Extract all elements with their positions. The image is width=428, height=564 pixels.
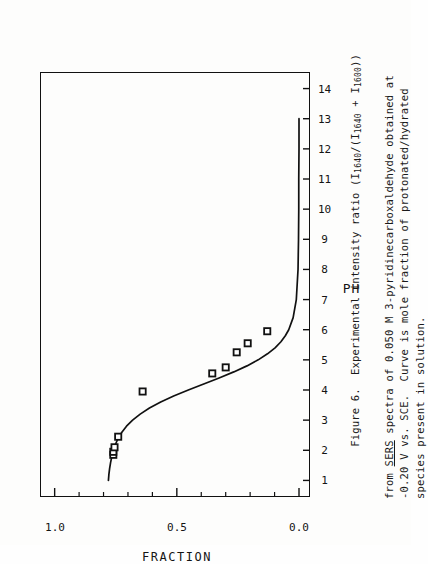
x-tick-label-2: 2: [321, 444, 328, 457]
figure-caption: Figure 6. Experimental intensity ratio (…: [332, 69, 428, 499]
y-axis-title: FRACTION: [142, 550, 212, 564]
x-tick-label-8: 8: [321, 263, 328, 276]
y-tick-label-0.5: 0.5: [167, 521, 187, 534]
x-tick-label-1: 1: [321, 474, 328, 487]
x-tick-label-12: 12: [318, 142, 331, 155]
plot-area: [40, 72, 310, 497]
x-tick-label-13: 13: [318, 112, 331, 125]
x-tick-label-9: 9: [321, 233, 328, 246]
y-tick-label-0.0: 0.0: [289, 521, 309, 534]
plot-canvas: [40, 72, 310, 497]
x-tick-label-6: 6: [321, 323, 328, 336]
x-tick-label-5: 5: [321, 353, 328, 366]
caption-line-2: from SERS spectra of 0.050 M 3-pyridinec…: [382, 69, 398, 499]
x-tick-label-7: 7: [321, 293, 328, 306]
caption-line-3: -0.20 V vs. SCE. Curve is mole fraction …: [397, 69, 413, 499]
x-tick-label-4: 4: [321, 384, 328, 397]
x-tick-label-3: 3: [321, 414, 328, 427]
x-tick-label-10: 10: [318, 203, 331, 216]
x-tick-label-14: 14: [318, 82, 331, 95]
caption-figure-label: Figure 6.: [349, 388, 361, 447]
caption-line-1: Figure 6. Experimental intensity ratio (…: [332, 69, 382, 499]
x-tick-label-11: 11: [318, 173, 331, 186]
y-tick-label-1.0: 1.0: [45, 521, 65, 534]
caption-line-4: species present in solution.: [413, 69, 428, 499]
